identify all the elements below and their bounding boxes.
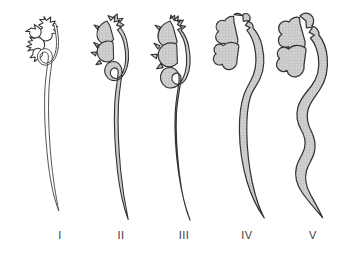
panel-iv-collecting-system: [234, 13, 264, 218]
panel-ii-calyx-upper-left: [94, 21, 114, 44]
panel-v-grade-5: [277, 13, 328, 217]
grade-label-iv: IV: [241, 228, 252, 242]
panel-ii-calyces-group: [91, 41, 114, 65]
panel-ii-grade-2: [91, 14, 128, 220]
panel-i-ureter: [37, 24, 58, 211]
panel-v-calyces-group: [277, 45, 306, 77]
grade-label-i: I: [58, 228, 62, 242]
panel-iv-calyces-group: [213, 42, 238, 69]
grade-label-row: I II III IV V: [0, 228, 340, 252]
diagram-canvas: [0, 0, 340, 258]
panel-iii-grade-3: [151, 15, 190, 220]
panel-iii-calyces-group: [151, 43, 177, 69]
grade-label-iii: III: [179, 228, 190, 242]
hydronephrosis-grading-figure: I II III IV V: [0, 0, 340, 258]
panel-i-calyx-upper-left: [26, 24, 41, 38]
panel-i-grade-1: [26, 17, 59, 212]
panel-iv-grade-4: [213, 13, 264, 218]
grade-label-ii: II: [117, 228, 124, 242]
grade-label-v: V: [309, 228, 317, 242]
